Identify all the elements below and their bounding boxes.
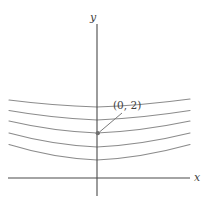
parabola-curve-4	[9, 133, 190, 147]
parabola-curve-2	[9, 111, 190, 121]
curve-group	[9, 99, 190, 160]
point-marker	[96, 131, 100, 135]
annotation-leader-line	[100, 113, 123, 132]
point-annotation-label: (0, 2)	[113, 99, 141, 111]
parabola-curve-1	[9, 99, 190, 107]
y-axis-label: y	[89, 11, 97, 24]
parabola-family-figure: y x (0, 2)	[0, 0, 206, 204]
figure-canvas: y x (0, 2)	[0, 0, 206, 204]
parabola-curve-3	[9, 121, 190, 133]
x-axis-label: x	[194, 171, 201, 184]
